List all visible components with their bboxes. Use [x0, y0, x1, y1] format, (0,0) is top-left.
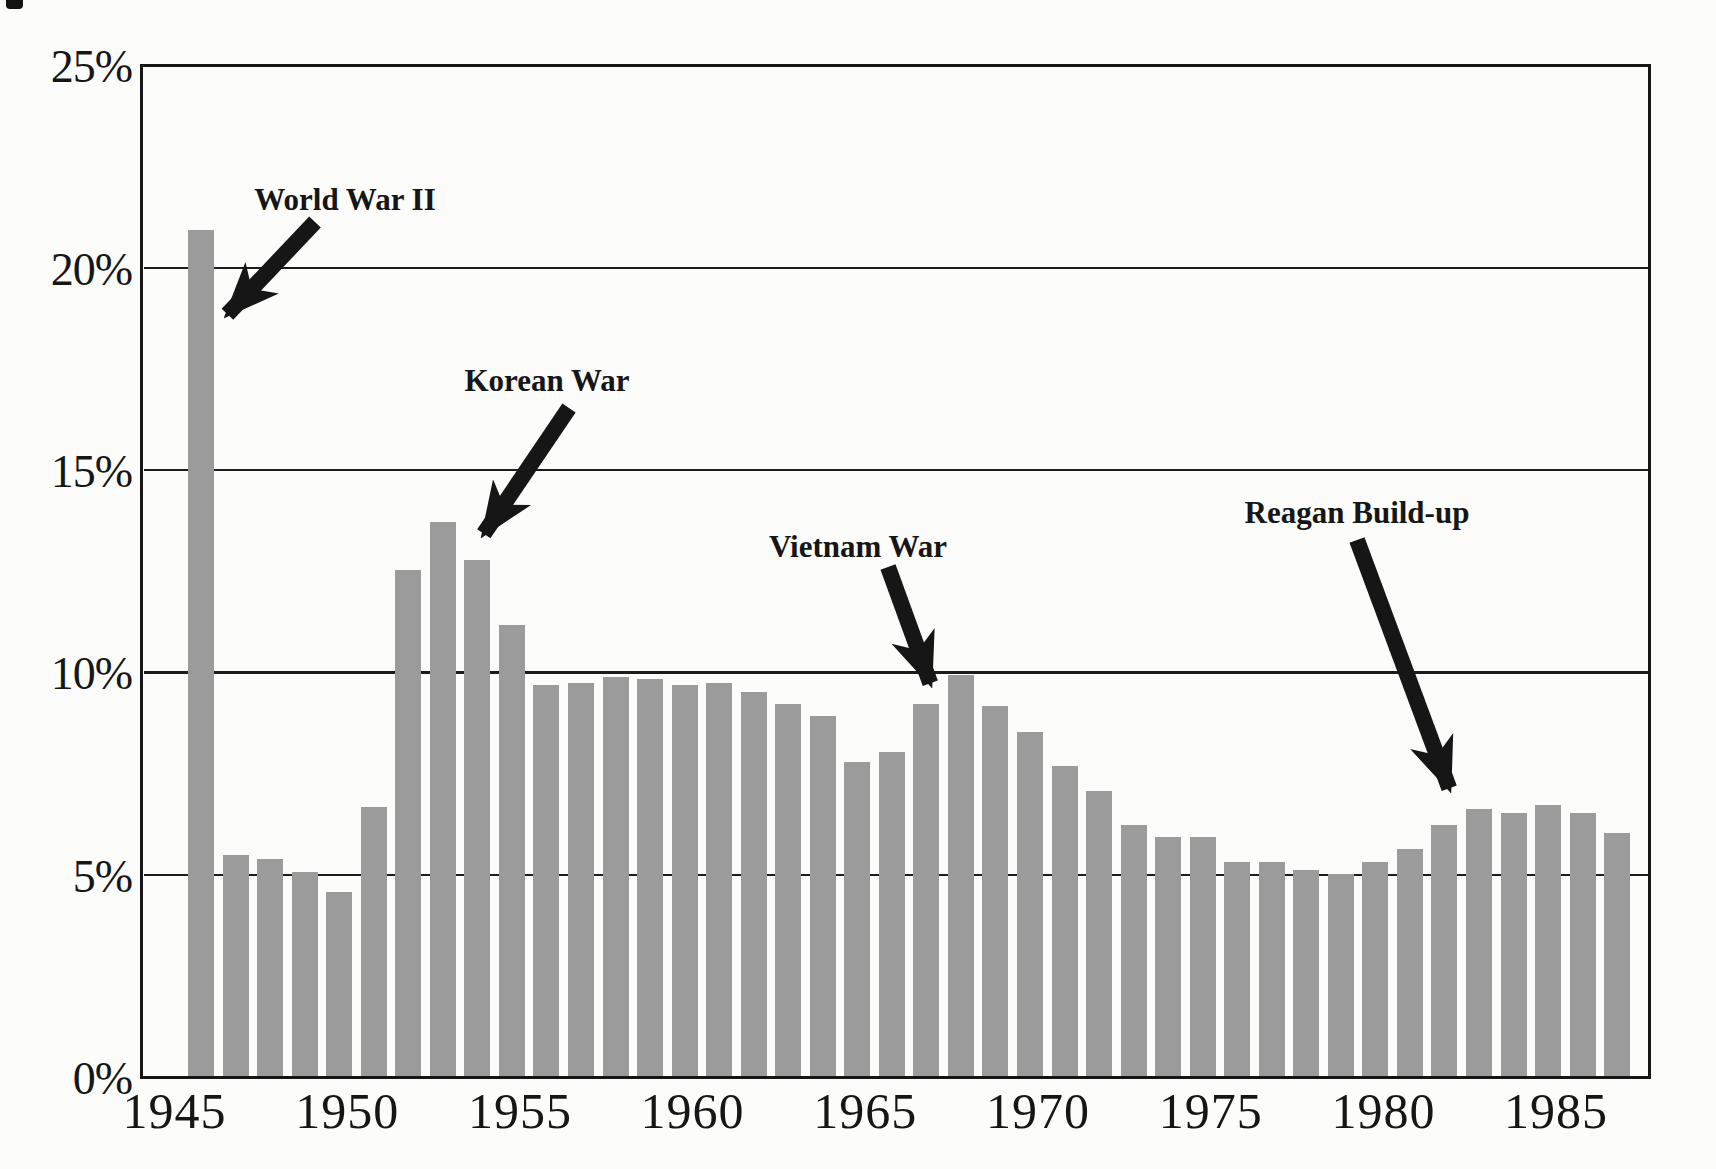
- annotation-arrow-world-war-ii: [227, 222, 315, 314]
- annotation-arrow-korean-war: [484, 408, 569, 534]
- chart-canvas: 25% 20% 15% 10% 5% 0% 1945 1950 1955 196…: [0, 0, 1716, 1169]
- annotation-arrow-reagan-build-up: [1357, 540, 1449, 788]
- arrows-layer: [0, 0, 1716, 1169]
- annotation-arrow-vietnam-war: [888, 567, 930, 683]
